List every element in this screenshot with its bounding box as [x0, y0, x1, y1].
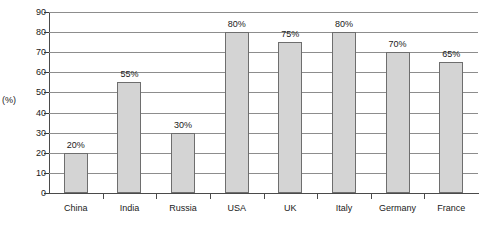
y-tick-label: 10 — [24, 168, 46, 177]
y-tick-mark — [44, 12, 49, 13]
gridline — [49, 133, 478, 134]
bar-value-label: 30% — [153, 121, 213, 130]
bar — [171, 133, 195, 193]
bar — [64, 153, 88, 193]
gridline — [49, 113, 478, 114]
bar-chart-figure: (%) 0102030405060708090 20%China55%India… — [0, 0, 487, 233]
gridline — [49, 12, 478, 13]
bar-value-label: 70% — [368, 40, 428, 49]
x-tick-mark — [424, 194, 425, 199]
bar-value-label: 80% — [314, 20, 374, 29]
y-tick-label: 80 — [24, 28, 46, 37]
y-tick-label: 70 — [24, 48, 46, 57]
y-tick-label: 60 — [24, 68, 46, 77]
x-tick-mark — [371, 194, 372, 199]
x-category-label: France — [416, 203, 486, 213]
x-tick-mark — [317, 194, 318, 199]
gridline — [49, 52, 478, 53]
gridline — [49, 153, 478, 154]
y-tick-label: 30 — [24, 128, 46, 137]
bar-value-label: 55% — [99, 70, 159, 79]
y-tick-label: 90 — [24, 8, 46, 17]
bar — [439, 62, 463, 193]
x-tick-mark — [156, 194, 157, 199]
gridline — [49, 173, 478, 174]
x-tick-mark — [210, 194, 211, 199]
x-tick-mark — [264, 194, 265, 199]
y-tick-mark — [44, 32, 49, 33]
y-tick-label: 0 — [24, 189, 46, 198]
bar-value-label: 80% — [207, 20, 267, 29]
y-tick-label: 50 — [24, 88, 46, 97]
bar — [225, 32, 249, 193]
y-tick-mark — [44, 193, 49, 194]
y-tick-mark — [44, 72, 49, 73]
bar-value-label: 20% — [46, 141, 106, 150]
y-tick-label: 20 — [24, 148, 46, 157]
y-axis-tick-labels: 0102030405060708090 — [24, 12, 46, 193]
y-tick-mark — [44, 92, 49, 93]
y-axis-title: (%) — [2, 95, 16, 105]
bar-value-label: 65% — [421, 50, 481, 59]
y-tick-mark — [44, 133, 49, 134]
y-tick-mark — [44, 52, 49, 53]
gridline — [49, 92, 478, 93]
y-tick-mark — [44, 153, 49, 154]
bar — [332, 32, 356, 193]
y-tick-mark — [44, 173, 49, 174]
bar — [386, 52, 410, 193]
bar — [117, 82, 141, 193]
bar-value-label: 75% — [260, 30, 320, 39]
y-tick-mark — [44, 113, 49, 114]
y-tick-label: 40 — [24, 108, 46, 117]
bar — [278, 42, 302, 193]
x-tick-mark — [103, 194, 104, 199]
